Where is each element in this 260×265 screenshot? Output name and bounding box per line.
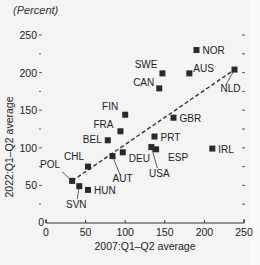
point-label-swe: SWE	[135, 59, 158, 70]
marker-fra	[117, 128, 123, 134]
marker-svn	[76, 183, 82, 189]
point-label-fin: FIN	[102, 101, 118, 112]
point-label-esp: ESP	[168, 152, 188, 163]
point-label-bel: BEL	[83, 134, 102, 145]
marker-prt	[152, 134, 158, 140]
y-axis-title: 2022:Q1–Q2 average	[3, 96, 15, 197]
point-label-fra: FRA	[93, 119, 113, 130]
x-tick-label: 50	[80, 226, 92, 238]
marker-pol	[69, 178, 75, 184]
point-label-aus: AUS	[193, 63, 214, 74]
point-label-hun: HUN	[94, 185, 116, 196]
point-label-deu: DEU	[129, 153, 150, 164]
point-label-nor: NOR	[202, 45, 224, 56]
marker-deu	[120, 149, 126, 155]
marker-nor	[193, 47, 199, 53]
marker-can	[156, 85, 162, 91]
point-label-usa: USA	[149, 168, 170, 179]
point-label-gbr: GBR	[180, 113, 202, 124]
marker-fin	[122, 112, 128, 118]
point-label-pol: POL	[40, 159, 60, 170]
marker-aus	[186, 70, 192, 76]
marker-bel	[105, 137, 111, 143]
point-label-svn: SVN	[66, 199, 87, 210]
point-label-prt: PRT	[161, 132, 181, 143]
x-tick-label: 250	[235, 226, 253, 238]
y-tick-label: 250	[19, 29, 37, 41]
point-label-irl: IRL	[218, 144, 234, 155]
marker-esp	[153, 146, 159, 152]
y-tick-label: 150	[19, 104, 37, 116]
x-tick-label: 200	[196, 226, 214, 238]
point-label-nld: NLD	[220, 83, 240, 94]
marker-chl	[85, 164, 91, 170]
y-tick-label: 200	[19, 67, 37, 79]
point-label-chl: CHL	[64, 151, 84, 162]
x-tick-label: 100	[116, 226, 134, 238]
y-tick-label: 50	[25, 179, 37, 191]
marker-irl	[209, 146, 215, 152]
point-label-can: CAN	[133, 77, 154, 88]
x-axis-title: 2007:Q1–Q2 average	[95, 240, 196, 252]
y-tick-label: 100	[19, 142, 37, 154]
marker-gbr	[171, 115, 177, 121]
y-tick-label: 0	[38, 216, 44, 228]
x-tick-label: 150	[156, 226, 174, 238]
marker-aut	[110, 153, 116, 159]
marker-nld	[231, 67, 237, 73]
point-label-aut: AUT	[113, 173, 133, 184]
scatter-chart: 0501001502002500501001502002502007:Q1–Q2…	[0, 0, 260, 265]
marker-swe	[159, 70, 165, 76]
marker-hun	[85, 187, 91, 193]
